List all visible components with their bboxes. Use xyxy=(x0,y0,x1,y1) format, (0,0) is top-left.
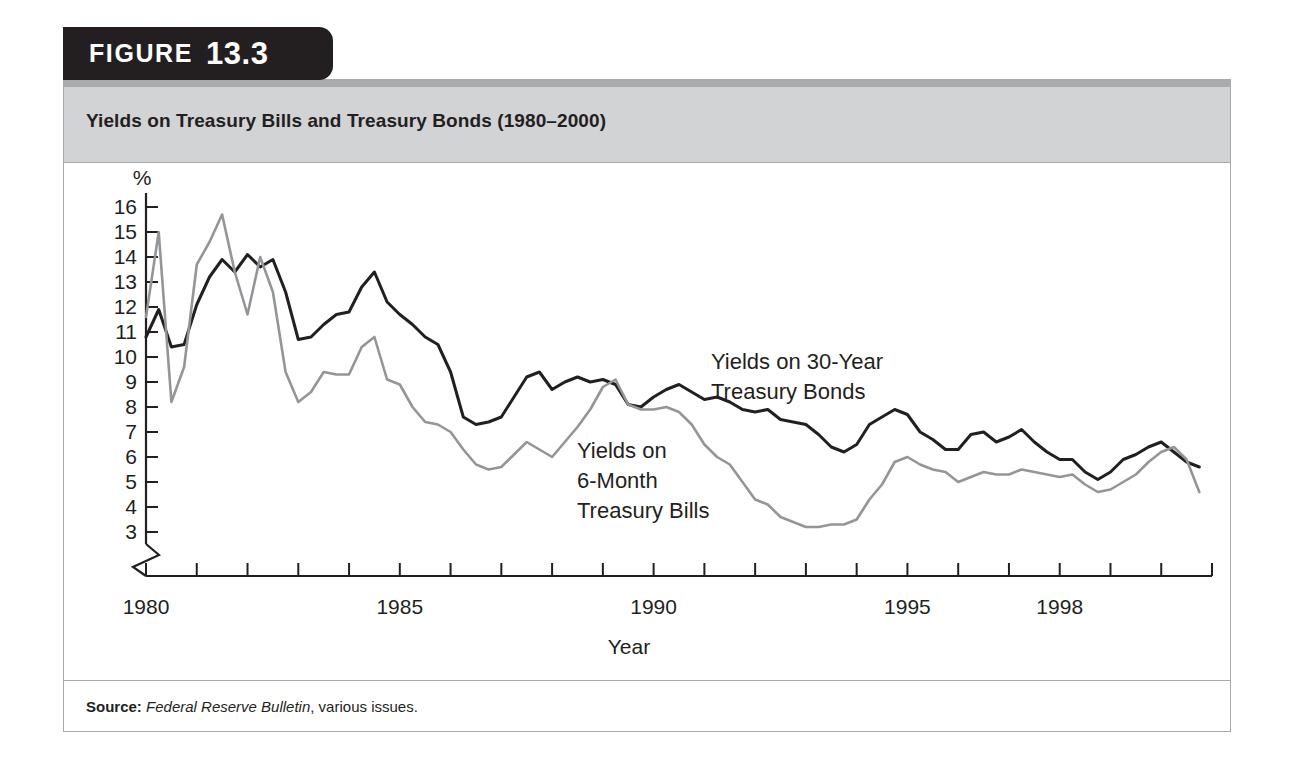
chart-series-lines xyxy=(146,215,1199,528)
y-tick-label: 7 xyxy=(125,420,137,443)
y-tick-label: 5 xyxy=(125,470,137,493)
figure-badge-number: 13.3 xyxy=(206,36,268,72)
y-tick-label: 12 xyxy=(114,295,137,318)
x-axis-title: Year xyxy=(608,635,650,658)
line-chart-svg: 161514131211109876543 198019851990199519… xyxy=(64,164,1230,673)
x-tick-label: 1980 xyxy=(123,595,170,618)
chart-x-tick-labels: 19801985199019951998 xyxy=(123,595,1083,618)
figure-title-bar: Yields on Treasury Bills and Treasury Bo… xyxy=(64,80,1230,163)
x-tick-label: 1995 xyxy=(884,595,931,618)
figure-container: FIGURE 13.3 Yields on Treasury Bills and… xyxy=(41,27,1232,735)
series-line-bills xyxy=(146,215,1199,528)
figure-badge-word: FIGURE xyxy=(89,39,193,68)
y-tick-label: 11 xyxy=(115,320,137,343)
source-note: Source: Federal Reserve Bulletin, variou… xyxy=(64,698,418,715)
y-tick-label: 4 xyxy=(125,495,137,518)
y-tick-label: 15 xyxy=(114,220,137,243)
annotation-bonds-line2: Treasury Bonds xyxy=(711,379,865,404)
y-tick-label: 3 xyxy=(125,520,137,543)
annotation-bonds-line1: Yields on 30-Year xyxy=(711,349,883,374)
source-label: Source: xyxy=(86,698,142,715)
title-bar-top-shade xyxy=(64,80,1230,87)
figure-source-bar: Source: Federal Reserve Bulletin, variou… xyxy=(64,680,1230,731)
y-tick-label: 10 xyxy=(114,345,137,368)
y-tick-label: 6 xyxy=(125,445,137,468)
figure-box: Yields on Treasury Bills and Treasury Bo… xyxy=(63,79,1231,732)
y-tick-label: 13 xyxy=(114,270,137,293)
annotation-bills-line3: Treasury Bills xyxy=(577,498,709,523)
x-tick-label: 1998 xyxy=(1036,595,1083,618)
source-suffix: , various issues. xyxy=(310,698,418,715)
source-publication: Federal Reserve Bulletin xyxy=(146,698,310,715)
y-axis-title: % xyxy=(133,166,152,189)
y-tick-label: 16 xyxy=(114,195,137,218)
chart-y-tick-labels: 161514131211109876543 xyxy=(114,195,138,543)
series-line-bonds xyxy=(146,255,1199,480)
y-tick-label: 14 xyxy=(114,245,138,268)
x-tick-label: 1985 xyxy=(376,595,423,618)
chart-title: Yields on Treasury Bills and Treasury Bo… xyxy=(64,110,606,132)
y-tick-label: 9 xyxy=(125,370,137,393)
y-tick-label: 8 xyxy=(125,395,137,418)
x-tick-label: 1990 xyxy=(630,595,677,618)
chart-series-annotations: Yields on 30-YearTreasury BondsYields on… xyxy=(577,349,883,523)
figure-number-badge: FIGURE 13.3 xyxy=(63,27,333,80)
annotation-bills-line2: 6-Month xyxy=(577,468,658,493)
annotation-bills-line1: Yields on xyxy=(577,438,667,463)
chart-plot-area: 161514131211109876543 198019851990199519… xyxy=(64,164,1230,673)
